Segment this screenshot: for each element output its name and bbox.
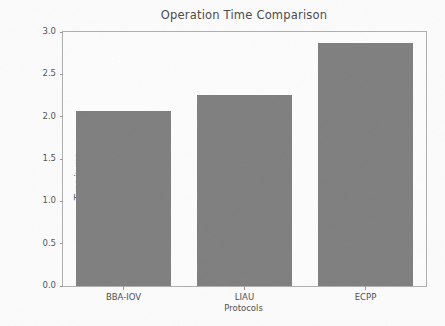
- x-tick-mark: [365, 286, 366, 290]
- bar: [76, 111, 170, 286]
- y-tick-label: 1.0: [42, 195, 56, 205]
- bars-layer: [63, 32, 426, 286]
- y-tick-label: 2.5: [42, 68, 56, 78]
- plot-area: Time in ms 0.00.51.01.52.02.53.0 BBA-IOV…: [62, 31, 427, 287]
- x-axis-label: Protocols: [62, 303, 425, 313]
- bar: [318, 43, 412, 286]
- y-tick-label: 3.0: [42, 26, 56, 36]
- x-tick-label: ECPP: [306, 292, 426, 302]
- y-tick-label: 2.0: [42, 111, 56, 121]
- chart-figure: Operation Time Comparison Time in ms 0.0…: [0, 0, 445, 326]
- x-tick-mark: [123, 286, 124, 290]
- y-tick-label: 1.5: [42, 153, 56, 163]
- y-tick-label: 0.5: [42, 238, 56, 248]
- x-tick-mark: [244, 286, 245, 290]
- x-tick-label: BBA-IOV: [64, 292, 184, 302]
- bar: [197, 95, 291, 286]
- y-tick-label: 0.0: [42, 280, 56, 290]
- chart-title: Operation Time Comparison: [62, 8, 426, 22]
- x-tick-label: LIAU: [185, 292, 305, 302]
